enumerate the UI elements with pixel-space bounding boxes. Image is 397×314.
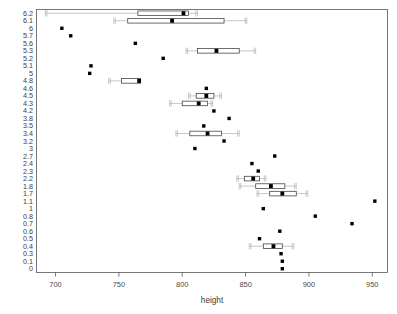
- median-marker: [137, 79, 141, 83]
- x-tick-label: 850: [239, 280, 251, 289]
- data-point: [193, 147, 196, 150]
- point-row: [281, 260, 284, 263]
- data-point: [262, 207, 265, 210]
- data-point: [250, 162, 253, 165]
- point-row: [60, 27, 63, 30]
- median-marker: [269, 184, 273, 188]
- boxplot-row: [189, 93, 222, 99]
- box-body: [182, 101, 207, 106]
- point-row: [212, 109, 215, 112]
- data-point: [281, 267, 284, 270]
- point-row: [88, 72, 91, 75]
- point-row: [162, 57, 165, 60]
- boxplot-row: [239, 183, 296, 189]
- point-row: [262, 207, 265, 210]
- data-point: [278, 229, 281, 232]
- box-body: [190, 131, 222, 136]
- point-row: [258, 237, 261, 240]
- data-point: [281, 260, 284, 263]
- point-row: [257, 169, 260, 172]
- boxplot-row: [114, 18, 247, 24]
- boxplot-row: [170, 100, 213, 106]
- x-tick-label: 950: [366, 280, 378, 289]
- x-tick-label: 750: [113, 280, 125, 289]
- data-point: [279, 252, 282, 255]
- point-row: [69, 34, 72, 37]
- boxplot-row: [249, 243, 293, 249]
- data-point: [227, 117, 230, 120]
- median-marker: [251, 177, 255, 181]
- data-point: [69, 34, 72, 37]
- point-row: [193, 147, 196, 150]
- data-point: [258, 237, 261, 240]
- point-row: [222, 139, 225, 142]
- point-row: [373, 199, 376, 202]
- box-body: [138, 11, 189, 16]
- data-point: [205, 87, 208, 90]
- box-body: [197, 49, 239, 54]
- median-marker: [197, 101, 201, 105]
- data-point: [350, 222, 353, 225]
- data-point: [89, 64, 92, 67]
- median-marker: [170, 19, 174, 23]
- point-row: [279, 252, 282, 255]
- boxplot-row: [237, 175, 266, 181]
- data-point: [257, 169, 260, 172]
- boxplot-row: [176, 130, 239, 136]
- boxplot-chart: 700750800850900950height6.26.165.75.65.3…: [0, 0, 397, 314]
- median-marker: [280, 192, 284, 196]
- median-marker: [272, 244, 276, 248]
- median-marker: [204, 94, 208, 98]
- boxplot-row: [186, 48, 256, 54]
- point-row: [314, 214, 317, 217]
- data-point: [134, 42, 137, 45]
- data-point: [202, 124, 205, 127]
- x-axis-title: height: [201, 296, 224, 305]
- boxplot-row: [109, 78, 141, 84]
- boxplot-row: [45, 10, 197, 16]
- point-row: [278, 229, 281, 232]
- point-row: [350, 222, 353, 225]
- data-point: [222, 139, 225, 142]
- boxplot-row: [257, 190, 308, 196]
- point-row: [134, 42, 137, 45]
- point-row: [227, 117, 230, 120]
- box-body: [128, 18, 224, 23]
- median-marker: [215, 49, 219, 53]
- median-marker: [182, 11, 186, 15]
- median-marker: [206, 131, 210, 135]
- data-point: [60, 27, 63, 30]
- point-row: [273, 154, 276, 157]
- point-row: [281, 267, 284, 270]
- data-point: [162, 57, 165, 60]
- data-point: [273, 154, 276, 157]
- x-tick-label: 800: [176, 280, 188, 289]
- point-row: [202, 124, 205, 127]
- data-point: [373, 199, 376, 202]
- point-row: [205, 87, 208, 90]
- data-point: [212, 109, 215, 112]
- chart-canvas: 700750800850900950height6.26.165.75.65.3…: [0, 0, 397, 314]
- data-point: [88, 72, 91, 75]
- x-tick-label: 700: [49, 280, 61, 289]
- x-tick-label: 900: [303, 280, 315, 289]
- data-point: [314, 214, 317, 217]
- y-category-label: 0: [29, 264, 33, 273]
- point-row: [250, 162, 253, 165]
- point-row: [89, 64, 92, 67]
